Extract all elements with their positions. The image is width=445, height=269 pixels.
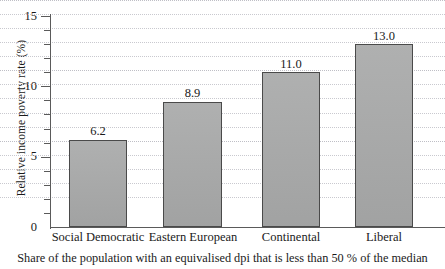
x-axis-line bbox=[50, 227, 445, 228]
y-tick-1 bbox=[44, 213, 50, 214]
bar-liberal bbox=[355, 44, 413, 227]
x-tick-label-eastern-european: Eastern European bbox=[133, 230, 253, 245]
bar-eastern-european bbox=[163, 102, 222, 227]
bar-chart-figure: Relative income poverty rate (%) 15 10 5… bbox=[0, 0, 445, 269]
y-tick-11 bbox=[44, 72, 50, 73]
bar-social-democratic bbox=[69, 140, 127, 227]
y-tick-10 bbox=[41, 86, 50, 87]
chart-caption: Share of the population with an equivali… bbox=[0, 251, 445, 266]
y-tick-7 bbox=[44, 129, 50, 130]
bar-continental bbox=[262, 72, 320, 227]
y-tick-9 bbox=[44, 100, 50, 101]
y-tick-4 bbox=[44, 171, 50, 172]
bar-value-liberal: 13.0 bbox=[355, 29, 413, 44]
y-tick-8 bbox=[44, 114, 50, 115]
y-tick-6 bbox=[44, 143, 50, 144]
y-tick-13 bbox=[44, 44, 50, 45]
y-tick-3 bbox=[44, 185, 50, 186]
y-axis-line bbox=[50, 14, 51, 229]
bar-value-eastern-european: 8.9 bbox=[163, 86, 222, 101]
y-tick-14 bbox=[44, 30, 50, 31]
bar-value-continental: 11.0 bbox=[262, 57, 320, 72]
y-tick-5 bbox=[41, 157, 50, 158]
y-tick-12 bbox=[44, 58, 50, 59]
y-tick-15 bbox=[41, 16, 50, 17]
bar-value-social-democratic: 6.2 bbox=[69, 124, 127, 139]
y-tick-2 bbox=[44, 199, 50, 200]
x-tick-label-liberal: Liberal bbox=[334, 230, 434, 245]
x-tick-label-continental: Continental bbox=[241, 230, 341, 245]
